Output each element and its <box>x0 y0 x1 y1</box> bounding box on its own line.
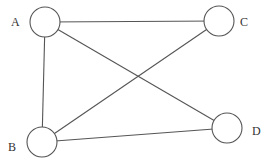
graph-diagram: ACBD <box>0 0 269 165</box>
edge-b-d <box>42 128 227 142</box>
edge-a-b <box>42 22 45 142</box>
node-label-a: A <box>11 15 20 29</box>
node-label-b: B <box>8 140 16 154</box>
edges-layer <box>42 21 227 142</box>
edge-a-d <box>45 22 227 128</box>
node-a <box>30 7 60 37</box>
node-d <box>212 113 242 143</box>
node-b <box>27 127 57 157</box>
node-c <box>204 6 234 36</box>
edge-c-b <box>42 21 219 142</box>
node-label-c: C <box>240 15 248 29</box>
edge-a-c <box>45 21 219 22</box>
node-label-d: D <box>252 124 261 138</box>
nodes-layer: ACBD <box>8 6 261 157</box>
